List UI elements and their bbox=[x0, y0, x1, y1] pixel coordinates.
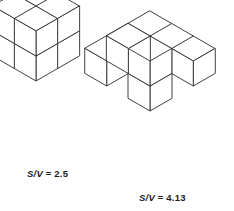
ratio-symbol-right: S/V bbox=[139, 192, 155, 203]
ratio-symbol-left: S/V bbox=[27, 168, 43, 179]
isometric-drawing-canvas bbox=[0, 0, 234, 211]
shape-branched-block bbox=[85, 11, 215, 111]
ratio-value-left: = 2.5 bbox=[46, 168, 68, 179]
isometric-cube-figure bbox=[0, 0, 234, 211]
shape-compact-block bbox=[0, 0, 79, 81]
caption-branched-block: S/V = 4.13 bbox=[139, 192, 186, 203]
caption-compact-block: S/V = 2.5 bbox=[27, 168, 68, 179]
ratio-value-right: = 4.13 bbox=[158, 192, 186, 203]
